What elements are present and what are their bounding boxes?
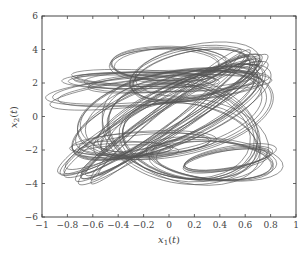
y-tick-label: −4	[25, 179, 39, 189]
y-tick-label: −6	[25, 212, 39, 222]
y-tick-label: 2	[32, 78, 38, 88]
x-tick-label: 1	[293, 220, 299, 230]
x-tick-label: −0.2	[133, 220, 155, 230]
x-tick-label: 0.2	[187, 220, 201, 230]
y-axis-ticks: −6−4−20246	[25, 11, 296, 222]
y-tick-label: 4	[32, 45, 38, 55]
x-tick-label: 0.4	[213, 220, 228, 230]
x-tick-label: 0.8	[263, 220, 278, 230]
y-tick-label: 0	[32, 112, 38, 122]
y-tick-label: 6	[32, 11, 38, 21]
phase-portrait-figure: −1−0.8−0.6−0.4−0.200.20.40.60.81 −6−4−20…	[0, 0, 307, 257]
y-tick-label: −2	[25, 145, 38, 155]
x-tick-label: −0.4	[107, 220, 129, 230]
trajectory-curves	[45, 32, 286, 198]
x-tick-label: 0.6	[238, 220, 253, 230]
y-axis-label: x2(t)	[8, 106, 21, 128]
x-axis-label: x1(t)	[158, 234, 180, 247]
x-tick-label: −0.8	[56, 220, 78, 230]
x-tick-label: −0.6	[82, 220, 104, 230]
x-tick-label: 0	[166, 220, 172, 230]
plot-area	[45, 32, 286, 198]
